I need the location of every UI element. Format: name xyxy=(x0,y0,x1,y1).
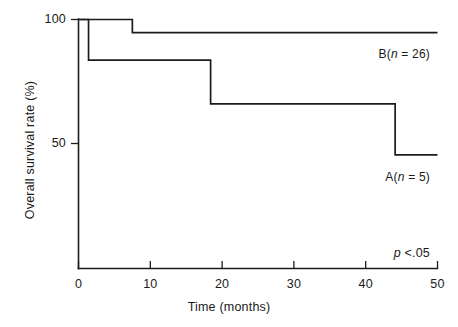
series-label-a: A(n = 5) xyxy=(300,170,430,184)
p-value-annotation: p <.05 xyxy=(300,246,430,260)
series-a-prefix: A( xyxy=(385,170,397,184)
x-tick-label-10: 10 xyxy=(143,277,157,291)
p-symbol: p xyxy=(394,246,401,260)
series-b-suffix: = 26) xyxy=(398,47,430,61)
x-tick-label-50: 50 xyxy=(430,277,444,291)
series-label-b: B(n = 26) xyxy=(300,47,430,61)
survival-curve-a xyxy=(79,20,438,155)
x-tick-label-40: 40 xyxy=(359,277,373,291)
x-tick-label-20: 20 xyxy=(215,277,229,291)
series-b-italic-n: n xyxy=(391,47,398,61)
y-axis-title: Overall survival rate (%) xyxy=(23,55,37,245)
y-tick-label-50: 50 xyxy=(36,136,66,150)
p-value-text: <.05 xyxy=(401,246,430,260)
x-tick-label-30: 30 xyxy=(287,277,301,291)
series-a-italic-n: n xyxy=(398,170,405,184)
series-a-suffix: = 5) xyxy=(405,170,430,184)
y-tick-label-100: 100 xyxy=(36,12,66,26)
x-axis-title: Time (months) xyxy=(0,300,458,314)
x-tick-label-0: 0 xyxy=(75,277,82,291)
kaplan-meier-chart: 100 50 0 10 20 30 40 50 Time (months) Ov… xyxy=(0,0,458,327)
survival-curve-b xyxy=(79,20,438,33)
series-b-prefix: B( xyxy=(378,47,390,61)
